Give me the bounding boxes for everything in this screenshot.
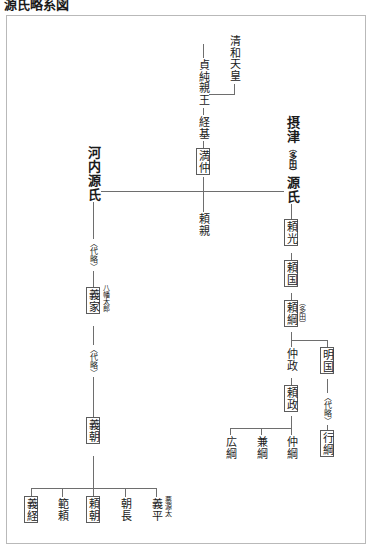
- genealogy-chart-frame: 河内源氏 摂津（多田）源氏 清和天皇 貞純親王 経基 満仲 頼親 頼光: [6, 15, 366, 544]
- annot-yoshihira-akugenta: 悪源太: [164, 496, 172, 517]
- node-yukitsuna-label: 行綱: [321, 432, 334, 455]
- annot-yoshiie-hachimantaro: 八幡太郎: [102, 284, 110, 312]
- node-yoshitomo[interactable]: 義朝: [86, 417, 100, 444]
- node-tsunemoto[interactable]: 経基: [197, 115, 209, 140]
- node-mitsunaka[interactable]: 満仲: [196, 148, 210, 175]
- node-yorimitsu-label: 頼光: [285, 221, 298, 244]
- heading-kawachi-label: 河内源氏: [86, 146, 101, 202]
- edge-akikuni-ellipsis: [327, 379, 328, 394]
- edge-seiwa-down: [234, 84, 235, 94]
- edge-mitsunaka-fan: [93, 191, 291, 192]
- node-noriyori[interactable]: 範頼: [56, 497, 68, 522]
- node-yoritomo-label: 頼朝: [87, 498, 100, 521]
- node-hirotsuna-label: 広綱: [224, 436, 237, 459]
- node-yoshiie[interactable]: 義家: [86, 287, 100, 314]
- node-sadazumi-label: 貞純親王: [197, 59, 210, 105]
- edge-yoritsuna-down: [291, 332, 292, 340]
- edge-yorimasa-down: [291, 416, 292, 428]
- heading-kawachi-genji: 河内源氏: [86, 146, 101, 202]
- node-hirotsuna[interactable]: 広綱: [224, 435, 236, 460]
- node-tomonaga-label: 朝長: [119, 498, 132, 521]
- node-seiwa-label: 清和天皇: [228, 35, 241, 81]
- genealogy-canvas: 河内源氏 摂津（多田）源氏 清和天皇 貞純親王 経基 満仲 頼親 頼光: [7, 16, 367, 545]
- edge-yoshitomo-down: [93, 456, 94, 488]
- node-akikuni[interactable]: 明国: [320, 347, 334, 374]
- node-yorimitsu[interactable]: 頼光: [284, 219, 298, 246]
- node-akikuni-label: 明国: [321, 349, 334, 372]
- node-yoshitsune[interactable]: 義経: [24, 496, 38, 523]
- node-nakamasa[interactable]: 仲政: [285, 347, 297, 372]
- edge-mitsunaka-down: [203, 177, 204, 191]
- heading-settsu-genji: 摂津（多田）源氏: [284, 116, 300, 204]
- edge-to-tomonaga: [125, 488, 126, 497]
- node-tsunemoto-label: 経基: [197, 116, 210, 139]
- node-nakatsuna[interactable]: 仲綱: [285, 435, 297, 460]
- node-nakatsuna-label: 仲綱: [285, 436, 298, 459]
- edge-to-noriyori: [62, 488, 63, 497]
- node-yoshitsune-label: 義経: [25, 498, 38, 521]
- heading-settsu-note: （多田）: [287, 144, 297, 176]
- node-noriyori-label: 範頼: [56, 498, 69, 521]
- heading-settsu-main-bottom: 源氏: [285, 176, 300, 204]
- ellipsis-kawachi-2: 〈代略〉: [88, 345, 97, 377]
- node-yorichika[interactable]: 頼親: [197, 212, 209, 237]
- node-yoshitomo-label: 義朝: [87, 419, 100, 442]
- edge-to-yorichika: [203, 191, 204, 213]
- node-kanetsuna[interactable]: 兼綱: [255, 435, 267, 460]
- edge-yoritsuna-fan: [291, 340, 327, 341]
- node-yoritsuna-label: 頼綱: [285, 302, 298, 325]
- node-kanetsuna-label: 兼綱: [255, 436, 268, 459]
- edge-yoshiie-to-ellipsis2: [93, 326, 94, 346]
- node-nakamasa-label: 仲政: [285, 348, 298, 371]
- edge-ellipsis1-to-yoshiie: [93, 268, 94, 288]
- node-yorimasa-label: 頼政: [285, 387, 298, 410]
- node-yoshihira[interactable]: 義平: [150, 497, 162, 522]
- node-yoshiie-label: 義家: [87, 289, 100, 312]
- edge-to-yoshihira: [156, 488, 157, 497]
- ellipsis-kawachi-1: 〈代略〉: [88, 239, 97, 271]
- ellipsis-settsu-1: 〈代略〉: [322, 393, 331, 425]
- annot-yoritsuna-tada: （多田）: [298, 299, 306, 327]
- node-seiwa[interactable]: 清和天皇: [228, 34, 240, 82]
- heading-settsu-main-top: 摂津: [285, 116, 300, 144]
- node-yukitsuna[interactable]: 行綱: [320, 430, 334, 457]
- node-yoritsuna[interactable]: 頼綱: [284, 300, 298, 327]
- node-yoritomo[interactable]: 頼朝: [86, 496, 100, 523]
- node-yorikuni-label: 頼国: [285, 262, 298, 285]
- node-yorimasa[interactable]: 頼政: [284, 385, 298, 412]
- node-mitsunaka-label: 満仲: [197, 150, 210, 173]
- node-yorichika-label: 頼親: [197, 213, 210, 236]
- page-title: 源氏略系図: [4, 0, 69, 12]
- edge-ellipsis2-to-yoshitomo: [93, 374, 94, 418]
- node-yorikuni[interactable]: 頼国: [284, 260, 298, 287]
- node-tomonaga[interactable]: 朝長: [119, 497, 131, 522]
- node-yoshihira-label: 義平: [150, 498, 163, 521]
- node-sadazumi[interactable]: 貞純親王: [197, 58, 209, 106]
